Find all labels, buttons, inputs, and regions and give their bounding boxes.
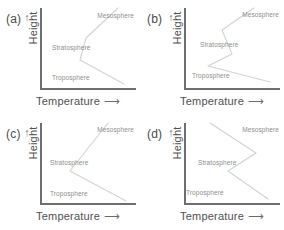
y-axis-title: Height <box>171 12 183 45</box>
x-axis-title: Temperature <box>180 210 244 222</box>
panel-b: (b) ↑ Height Mesosphere Stratosphere Tro… <box>142 0 284 115</box>
panel-a-x-axis-group: Temperature ⟶ <box>36 95 120 107</box>
y-axis-title: Height <box>27 127 39 160</box>
panel-d-y-axis-group: ↑ Height <box>160 125 182 205</box>
x-axis-title: Temperature <box>180 95 244 107</box>
layer-label-stratosphere: Stratosphere <box>50 159 88 166</box>
x-axis-arrow-icon: ⟶ <box>104 211 120 222</box>
panel-b-y-axis-group: ↑ Height <box>160 10 182 90</box>
layer-label-troposphere: Troposphere <box>186 189 224 196</box>
layer-label-mesosphere: Mesosphere <box>97 12 134 19</box>
panel-a-y-axis-group: ↑ Height <box>16 10 38 90</box>
layer-label-stratosphere: Stratosphere <box>198 159 236 166</box>
y-axis-title: Height <box>171 127 183 160</box>
layer-label-troposphere: Troposphere <box>192 72 230 79</box>
layer-label-stratosphere: Stratosphere <box>52 44 90 51</box>
panel-b-x-axis-group: Temperature ⟶ <box>180 95 264 107</box>
x-axis-title: Temperature <box>36 95 100 107</box>
panel-c-plot-area: Mesosphere Stratosphere Troposphere <box>40 123 136 205</box>
layer-label-mesosphere: Mesosphere <box>97 126 134 133</box>
layer-label-mesosphere: Mesosphere <box>242 126 279 133</box>
layer-label-troposphere: Troposphere <box>50 190 88 197</box>
panel-d-plot-area: Mesosphere Stratosphere Troposphere <box>184 123 280 205</box>
panel-a-plot-area: Mesosphere Stratosphere Troposphere <box>40 8 136 90</box>
panel-b-plot-area: Mesosphere Stratosphere Troposphere <box>184 8 280 90</box>
panel-a: (a) ↑ Height Mesosphere Stratosphere Tro… <box>0 0 142 115</box>
layer-label-troposphere: Troposphere <box>52 74 90 81</box>
panel-c-y-axis-group: ↑ Height <box>16 125 38 205</box>
layer-label-stratosphere: Stratosphere <box>200 41 238 48</box>
x-axis-arrow-icon: ⟶ <box>248 96 264 107</box>
panel-c: (c) ↑ Height Mesosphere Stratosphere Tro… <box>0 115 142 230</box>
panel-d: (d) ↑ Height Mesosphere Stratosphere Tro… <box>142 115 284 230</box>
layer-label-mesosphere: Mesosphere <box>242 11 279 18</box>
panel-c-x-axis-group: Temperature ⟶ <box>36 210 120 222</box>
x-axis-arrow-icon: ⟶ <box>248 211 264 222</box>
x-axis-title: Temperature <box>36 210 100 222</box>
x-axis-arrow-icon: ⟶ <box>104 96 120 107</box>
panel-d-x-axis-group: Temperature ⟶ <box>180 210 264 222</box>
atmosphere-profile-figure: (a) ↑ Height Mesosphere Stratosphere Tro… <box>0 0 284 230</box>
y-axis-title: Height <box>27 12 39 45</box>
